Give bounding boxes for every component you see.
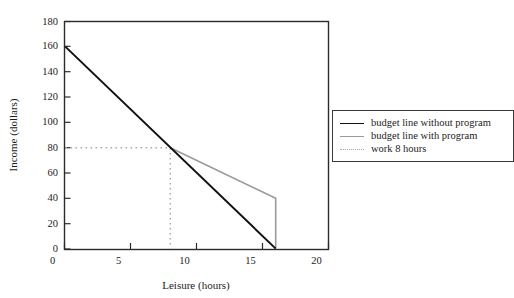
solid-gray-line-icon	[339, 130, 365, 142]
y-tick-label-120: 120	[30, 92, 58, 103]
y-tick-label-40: 40	[36, 193, 58, 204]
y-tick-label-60: 60	[36, 168, 58, 179]
y-axis-title: Income (dollars)	[8, 99, 19, 172]
x-tick-label-10: 10	[173, 256, 197, 267]
x-tick-label-0: 0	[41, 256, 65, 267]
legend-item-budget-with-program: budget line with program	[339, 129, 509, 142]
legend-item-work-8-hours: work 8 hours	[339, 142, 509, 155]
plot-frame	[65, 22, 329, 250]
x-tick-label-5: 5	[107, 256, 131, 267]
x-tick-label-15: 15	[239, 256, 263, 267]
y-tick-label-140: 140	[30, 66, 58, 77]
y-tick-label-160: 160	[30, 41, 58, 52]
solid-black-line-icon	[339, 117, 365, 129]
dotted-gray-line-icon	[339, 143, 365, 155]
legend-label: budget line with program	[371, 130, 477, 142]
legend-item-budget-without-program: budget line without program	[339, 116, 509, 129]
y-tick-label-100: 100	[30, 117, 58, 128]
legend-label: work 8 hours	[371, 143, 426, 155]
y-tick-label-180: 180	[30, 16, 58, 27]
y-tick-label-0: 0	[36, 244, 58, 255]
x-tick-label-20: 20	[305, 256, 329, 267]
y-tick-label-20: 20	[36, 218, 58, 229]
x-axis-title: Leisure (hours)	[162, 280, 230, 291]
legend-label: budget line without program	[371, 117, 491, 129]
y-tick-label-80: 80	[36, 142, 58, 153]
chart-legend: budget line without program budget line …	[332, 110, 514, 162]
